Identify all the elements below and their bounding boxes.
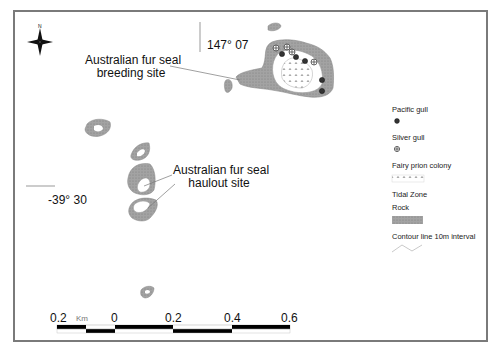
legend-rock-icon bbox=[392, 216, 423, 224]
scale-tick-0: 0 bbox=[111, 311, 118, 325]
legend-fairy-prion-icon bbox=[392, 175, 424, 182]
scale-tick-0.2: 0.2 bbox=[165, 311, 182, 325]
legend-silver-gull-icon bbox=[394, 146, 399, 151]
haulout-site-label: Australian fur seal haulout site bbox=[173, 164, 265, 190]
islet-haulout-south bbox=[129, 198, 158, 221]
scale-tick-0.4: 0.4 bbox=[224, 311, 241, 325]
legend-item-contour: Contour line 10m interval bbox=[392, 232, 475, 241]
islet-center-north bbox=[131, 143, 150, 160]
scale-tick-left-0.2: 0.2 bbox=[50, 311, 67, 325]
legend-item-fairy-prion: Fairy prion colony bbox=[392, 161, 451, 170]
legend-item-rock: Rock bbox=[392, 203, 409, 212]
legend-contour-icon bbox=[392, 245, 422, 252]
breeding-site-label-line2: breeding site bbox=[85, 67, 177, 80]
scale-tick-0.6: 0.6 bbox=[281, 311, 298, 325]
north-label: N bbox=[38, 23, 42, 29]
latitude-label: -39° 30 bbox=[48, 193, 87, 207]
legend-pacific-gull-icon bbox=[395, 119, 400, 124]
legend-item-silver-gull: Silver gull bbox=[392, 133, 425, 142]
islet-haulout-north bbox=[128, 164, 156, 195]
breeding-leader-line bbox=[170, 66, 240, 80]
islet-south bbox=[141, 286, 154, 298]
scale-bar bbox=[57, 325, 290, 333]
haulout-site-label-line2: haulout site bbox=[173, 177, 265, 190]
breeding-site-label: Australian fur seal breeding site bbox=[85, 54, 177, 80]
scale-unit: Km bbox=[76, 314, 88, 323]
north-arrow-icon bbox=[27, 28, 53, 56]
islet-west bbox=[85, 119, 111, 136]
main-island bbox=[224, 23, 333, 97]
longitude-label: 147° 07 bbox=[207, 38, 249, 52]
legend-item-tidal-zone: Tidal Zone bbox=[392, 190, 427, 199]
legend-item-pacific-gull: Pacific gull bbox=[392, 105, 428, 114]
